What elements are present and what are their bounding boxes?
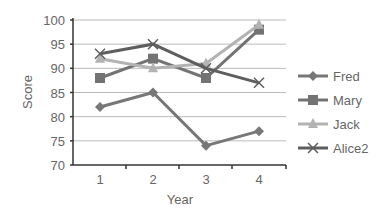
legend-label: Fred: [333, 69, 360, 84]
series-jack: [95, 19, 264, 73]
y-tick-label: 70: [51, 158, 65, 173]
square-marker: [201, 73, 211, 83]
legend-item-alice2: Alice2: [298, 141, 368, 156]
series-mary: [95, 25, 264, 83]
y-tick-label: 100: [43, 13, 65, 28]
diamond-marker: [254, 126, 264, 136]
legend-item-fred: Fred: [298, 69, 360, 84]
legend: FredMaryJackAlice2: [298, 69, 368, 156]
legend-item-mary: Mary: [298, 93, 362, 108]
y-tick-label: 75: [51, 134, 65, 149]
x-tick-label: 4: [255, 172, 262, 187]
line: [100, 93, 259, 146]
legend-item-jack: Jack: [298, 117, 360, 132]
line-chart: 7075808590951001234 FredMaryJackAlice2 Y…: [0, 0, 390, 219]
square-marker: [95, 73, 105, 83]
line: [100, 25, 259, 69]
y-axis-label: Score: [20, 75, 35, 109]
legend-label: Alice2: [333, 141, 368, 156]
y-tick-label: 80: [51, 110, 65, 125]
x-tick-label: 3: [202, 172, 209, 187]
y-tick-label: 95: [51, 37, 65, 52]
line: [100, 30, 259, 78]
legend-label: Jack: [333, 117, 360, 132]
x-axis-label: Year: [167, 192, 194, 207]
square-marker: [308, 95, 318, 105]
y-tick-label: 90: [51, 61, 65, 76]
y-tick-label: 85: [51, 86, 65, 101]
square-marker: [148, 54, 158, 64]
legend-label: Mary: [333, 93, 362, 108]
series-lines: [95, 19, 264, 151]
diamond-marker: [95, 102, 105, 112]
x-tick-label: 2: [149, 172, 156, 187]
x-tick-label: 1: [96, 172, 103, 187]
diamond-marker: [308, 71, 318, 81]
